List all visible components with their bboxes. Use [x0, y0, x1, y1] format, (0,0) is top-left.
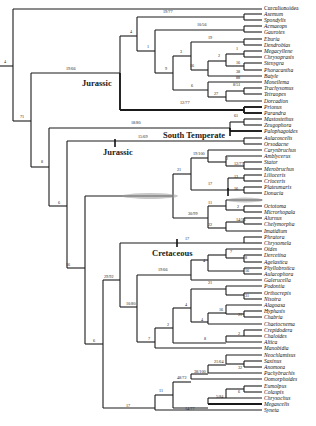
support-value: 2	[218, 53, 220, 58]
support-value: 7	[148, 336, 150, 341]
support-value: 14/77	[185, 406, 195, 411]
support-value: 17	[208, 181, 212, 186]
support-value: 6	[191, 83, 193, 88]
support-value: 16	[190, 63, 194, 68]
support-values: 47119/66419/7710/5611939121616388868/512…	[4, 9, 249, 411]
support-value: 16	[66, 262, 70, 267]
support-value: 19/77	[163, 9, 173, 14]
support-value: 21/64	[214, 359, 224, 364]
support-value: 4	[4, 59, 7, 64]
taxon-label: Stator	[264, 159, 278, 165]
support-value: 31	[245, 293, 249, 298]
support-value: 3	[180, 49, 182, 54]
support-value: 18/80	[131, 120, 141, 125]
support-value: 8	[204, 336, 206, 341]
taxon-label: Manobidia	[263, 345, 289, 351]
taxon-label: Podontia	[263, 283, 285, 289]
support-value: 29/92	[104, 274, 114, 279]
support-value: 32	[238, 365, 242, 370]
support-value: 10/80	[126, 301, 136, 306]
support-value: 2	[226, 156, 228, 161]
taxon-label: Donacia	[263, 190, 283, 196]
support-value: 10/56	[197, 22, 207, 27]
taxon-label: Chabria	[264, 314, 283, 320]
support-value: 19/100	[193, 151, 205, 156]
support-value: 12/77	[234, 161, 244, 166]
support-value: 2	[167, 322, 169, 327]
support-value: 5/84	[216, 394, 224, 399]
phylogenetic-tree: CurculionoideaAsemumSpondylisAcmaeopsGau…	[0, 0, 316, 426]
support-value: 11	[208, 200, 212, 205]
taxon-label: Stenygra	[264, 60, 284, 66]
taxon-label: Gaurotes	[264, 29, 285, 35]
support-value: 11	[159, 388, 163, 393]
taxon-label: Tetraopes	[264, 91, 286, 97]
era-labels: JurassicSouth TemperateJurassicCretaceou…	[82, 78, 225, 258]
support-value: 21	[238, 312, 242, 317]
era-label: Jurassic	[103, 147, 133, 157]
support-value: 71	[20, 114, 24, 119]
support-value: 2	[238, 331, 240, 336]
support-value: 17	[126, 403, 130, 408]
taxon-label: Oomorphoides	[264, 376, 297, 382]
support-value: 8/51	[233, 82, 240, 87]
support-value: 30/99	[188, 211, 198, 216]
taxon-labels: CurculionoideaAsemumSpondylisAcmaeopsGau…	[263, 5, 299, 413]
support-value: 38	[236, 69, 240, 74]
era-label: South Temperate	[163, 130, 225, 140]
support-value: 16	[236, 60, 240, 65]
support-value: 38/100	[194, 369, 206, 374]
support-value: 4	[201, 317, 204, 322]
support-value: 6	[238, 389, 240, 394]
support-value: 8	[41, 159, 43, 164]
support-value: 1	[236, 46, 238, 51]
support-value: 88	[236, 75, 240, 80]
tree-branches	[0, 9, 262, 410]
support-value: 12/77	[180, 100, 190, 105]
support-value: 4	[185, 302, 188, 307]
support-value: 8	[245, 255, 247, 260]
era-label: Jurassic	[82, 78, 112, 88]
taxon-label: Palophagoides	[263, 128, 298, 134]
taxon-label: Chelymorpha	[264, 221, 295, 227]
support-value: 22	[208, 222, 212, 227]
support-value: 13	[234, 174, 238, 179]
support-value: 9	[165, 66, 167, 71]
support-value: 17	[185, 236, 189, 241]
support-value: 16	[219, 307, 223, 312]
blur-artifacts	[122, 193, 263, 203]
support-value: 1	[147, 44, 149, 49]
support-value: 21	[177, 167, 181, 172]
support-value: 21	[208, 280, 212, 285]
support-value: 6	[93, 338, 95, 343]
support-value: 14/56	[236, 217, 246, 222]
support-value: 48/72	[177, 375, 187, 380]
support-value: 6	[58, 200, 60, 205]
taxon-label: Syneta	[264, 407, 279, 413]
support-value: 61	[234, 113, 238, 118]
support-value: 16	[234, 186, 238, 191]
support-value: 15/69	[138, 134, 148, 139]
era-label: Cretaceous	[152, 248, 193, 258]
support-value: 27	[214, 91, 218, 96]
support-value: 19/66	[158, 267, 168, 272]
support-value: 19	[208, 35, 212, 40]
support-value: 2	[237, 204, 239, 209]
taxon-label: Dercetina	[263, 252, 286, 258]
support-value: 19/66	[66, 66, 76, 71]
support-value: 4	[130, 29, 133, 34]
support-value: 7	[230, 249, 232, 254]
support-value: 16	[245, 268, 249, 273]
